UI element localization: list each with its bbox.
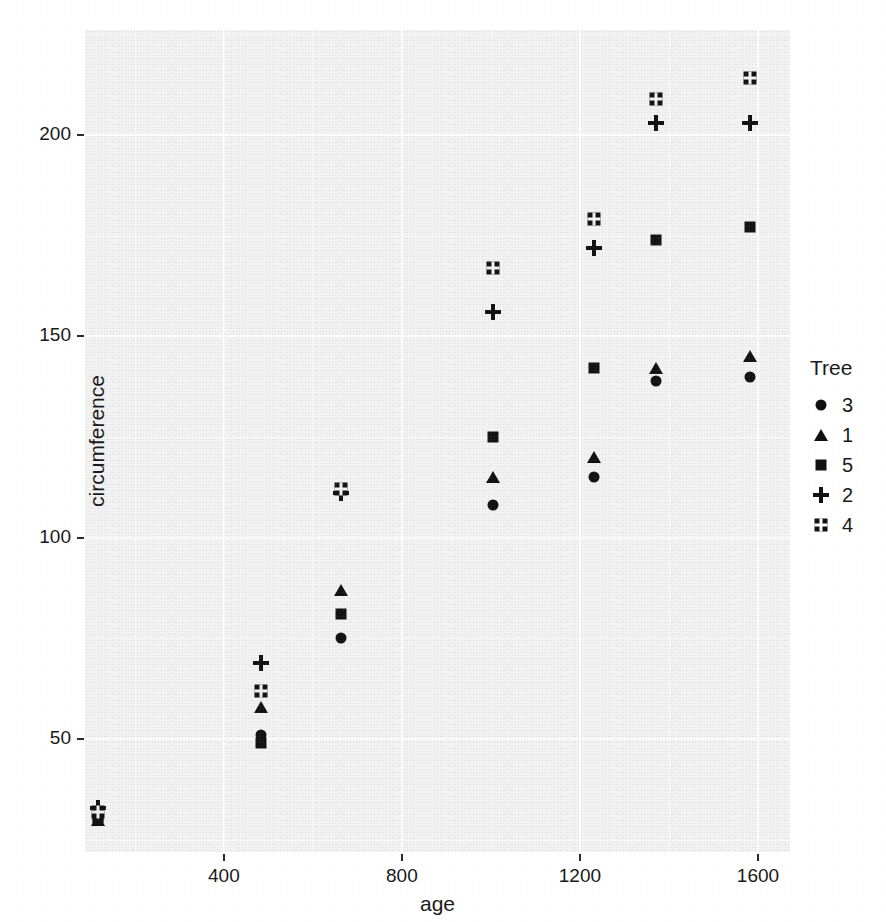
x-tick-mark (757, 854, 759, 861)
legend-item-tree-2[interactable]: 2 (808, 480, 886, 510)
data-point (255, 684, 268, 697)
marker-circle (816, 400, 827, 411)
legend-item-label: 5 (842, 454, 853, 477)
legend-key-plus (808, 482, 834, 508)
legend-item-tree-3[interactable]: 3 (808, 390, 886, 420)
x-tick-label: 1600 (718, 865, 798, 887)
legend-item-tree-1[interactable]: 1 (808, 420, 886, 450)
legend-item-label: 4 (842, 514, 853, 537)
y-tick-mark (77, 335, 84, 337)
x-axis-title: age (85, 892, 790, 916)
chart-figure: 50100150200 40080012001600 circumference… (0, 0, 886, 922)
data-point (335, 483, 348, 496)
y-tick-label: 200 (39, 123, 71, 145)
marker-plus (813, 487, 829, 503)
y-axis-title: circumference (85, 375, 109, 507)
data-point (92, 805, 105, 818)
plot-panel (85, 30, 790, 852)
x-tick-label: 400 (184, 865, 264, 887)
legend-key-triangle (808, 422, 834, 448)
marker-crossbox (815, 519, 828, 532)
legend-key-circle (808, 392, 834, 418)
legend-item-tree-5[interactable]: 5 (808, 450, 886, 480)
x-tick-mark (401, 854, 403, 861)
marker-square (816, 460, 827, 471)
y-tick-label: 50 (50, 727, 71, 749)
legend-item-label: 3 (842, 394, 853, 417)
x-tick-label: 1200 (540, 865, 620, 887)
data-point (486, 261, 499, 274)
y-tick-label: 150 (39, 324, 71, 346)
data-point (587, 213, 600, 226)
x-tick-mark (579, 854, 581, 861)
legend-key-square (808, 452, 834, 478)
legend-item-label: 2 (842, 484, 853, 507)
marker-triangle (814, 429, 828, 441)
y-tick-mark (77, 134, 84, 136)
series-tree-4 (85, 30, 790, 852)
data-point (650, 92, 663, 105)
y-tick-mark (77, 738, 84, 740)
legend-title: Tree (810, 356, 886, 380)
x-tick-mark (223, 854, 225, 861)
legend: Tree 31524 (808, 356, 886, 540)
y-tick-label: 100 (39, 526, 71, 548)
y-tick-mark (77, 537, 84, 539)
legend-key-crossbox (808, 512, 834, 538)
legend-item-label: 1 (842, 424, 853, 447)
data-point (743, 72, 756, 85)
x-tick-label: 800 (362, 865, 442, 887)
legend-items: 31524 (808, 390, 886, 540)
legend-item-tree-4[interactable]: 4 (808, 510, 886, 540)
